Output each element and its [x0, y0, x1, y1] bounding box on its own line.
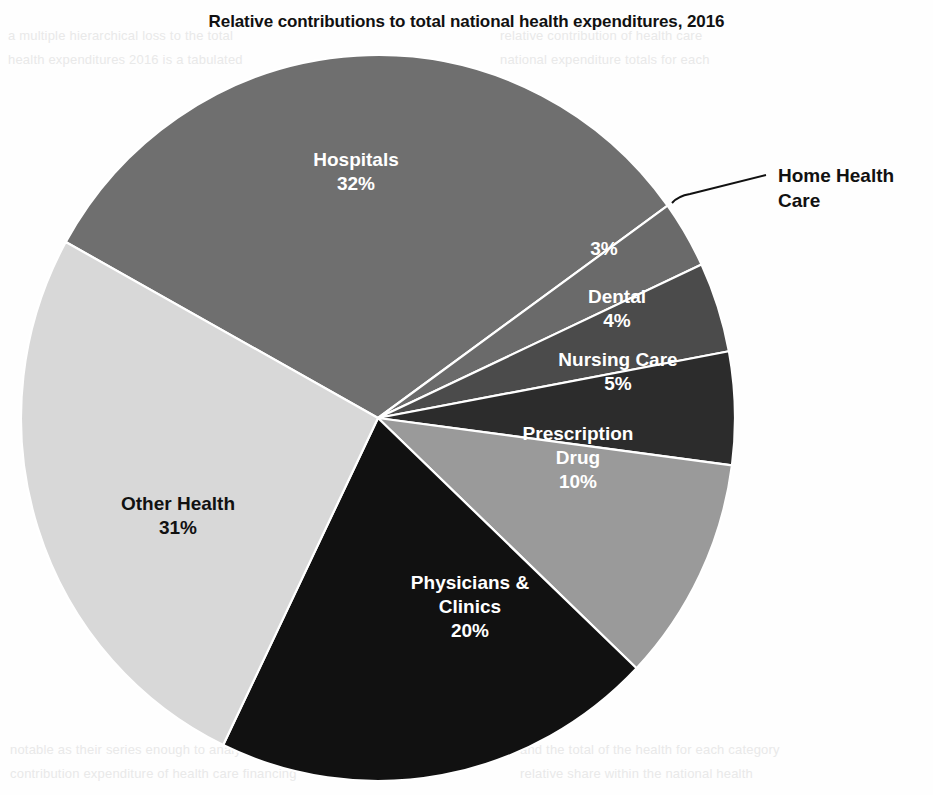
callout-label-home-health-care: Home HealthCare — [778, 165, 894, 211]
pie-callout-layer: Home HealthCare — [672, 165, 894, 211]
callout-leader-line-home-health-care — [672, 175, 766, 203]
page-canvas: a multiple hierarchical loss to the tota… — [0, 0, 933, 795]
slice-value-home-health-care: 3% — [590, 238, 618, 259]
pie-chart: Hospitals32%3%Dental4%Nursing Care5%Pres… — [0, 0, 933, 795]
